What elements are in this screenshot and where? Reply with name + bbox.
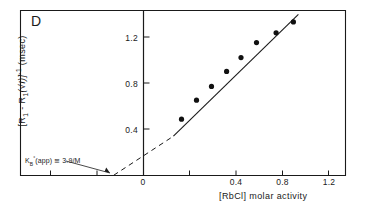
- y-axis-title-sub1: 1: [22, 113, 29, 117]
- data-point: [274, 30, 279, 35]
- figure-panel-d: D 0 0.4 0.8 1.2 0.4 0.8 1.2 [RbCl] molar…: [0, 0, 367, 212]
- data-points: [179, 19, 296, 122]
- fit-line-solid: [173, 14, 298, 136]
- kb-value: (app) ≅ 3.9/M: [35, 157, 80, 164]
- x-axis-title: [RbCl] molar activity: [219, 191, 307, 201]
- data-point: [254, 40, 259, 45]
- plot-frame: [21, 11, 346, 176]
- plot-canvas: [0, 0, 367, 212]
- panel-label: D: [31, 13, 42, 29]
- y-axis-title-sub2: 1: [22, 93, 29, 97]
- y-axis-title-radical: (√I)]: [17, 75, 27, 93]
- y-tick-label-0: 0.4: [116, 125, 138, 135]
- y-tick-label-1: 0.8: [116, 79, 138, 89]
- y-axis-title-unit: (msec): [17, 35, 27, 68]
- data-point: [224, 69, 229, 74]
- data-point: [291, 19, 296, 24]
- x-tick-label-2: 0.8: [270, 177, 296, 187]
- x-tick-label-1: 0.4: [223, 177, 249, 187]
- x-tick-label-3: 1.2: [316, 177, 342, 187]
- kb-subscript: B: [30, 161, 33, 167]
- x-axis-ticks: [51, 171, 329, 176]
- x-tick-label-0: 0: [130, 177, 156, 187]
- data-point: [194, 98, 199, 103]
- data-point: [209, 84, 214, 89]
- data-point: [179, 117, 184, 122]
- y-axis-title-exponent: -1: [15, 68, 22, 75]
- data-point: [238, 55, 243, 60]
- y-axis-title-open: [R: [17, 117, 27, 127]
- y-tick-label-2: 1.2: [116, 33, 138, 43]
- y-axis-title: [R1 - R1(√I)]-1 (msec): [15, 35, 29, 126]
- y-axis-ticks: [144, 37, 150, 129]
- y-axis-title-minus: - R: [17, 97, 27, 113]
- kb-app-annotation: KB°(app) ≅ 3.9/M: [25, 155, 80, 167]
